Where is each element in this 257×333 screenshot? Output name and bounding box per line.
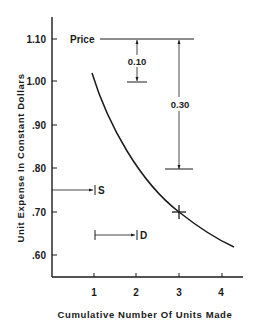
price-label: Price <box>70 34 95 45</box>
x-tick-label: 4 <box>218 287 224 298</box>
y-tick-label: .80 <box>32 163 46 174</box>
s-label: S <box>98 185 105 196</box>
y-tick-label: .70 <box>32 207 46 218</box>
experience-curve <box>92 73 234 247</box>
margin-0-30-label: 0.30 <box>171 99 190 110</box>
y-tick-label: .90 <box>32 120 46 131</box>
margin-0-10-label: 0.10 <box>128 56 147 67</box>
d-label: D <box>140 230 147 241</box>
y-tick-label: 1.10 <box>27 34 47 45</box>
y-tick-label: 1.00 <box>27 76 47 87</box>
x-tick-label: 2 <box>133 287 139 298</box>
d-arrow <box>95 230 137 240</box>
x-tick-labels: 1 2 3 4 <box>91 287 224 298</box>
y-axis-title: Unit Expense In Constant Dollars <box>15 73 26 242</box>
x-axis-title: Cumulative Number Of Units Made <box>58 309 233 320</box>
x-tick-label: 1 <box>91 287 97 298</box>
y-ticks <box>52 39 57 255</box>
experience-curve-chart: 1.10 1.00 .90 .80 .70 .60 1 2 3 4 Cumula… <box>0 0 257 333</box>
y-tick-label: .60 <box>32 250 46 261</box>
y-tick-labels: 1.10 1.00 .90 .80 .70 .60 <box>27 34 47 261</box>
x-tick-label: 3 <box>176 287 182 298</box>
s-arrow <box>52 185 95 195</box>
